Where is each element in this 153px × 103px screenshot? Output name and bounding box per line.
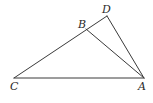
label-d: D [101, 3, 111, 16]
segment-ba [86, 29, 144, 78]
segment-cd [14, 16, 107, 78]
label-c: C [10, 80, 19, 93]
label-a: A [137, 80, 146, 93]
segment-da [107, 16, 144, 78]
geometry-diagram: A B C D [0, 0, 153, 103]
label-b: B [77, 18, 86, 31]
